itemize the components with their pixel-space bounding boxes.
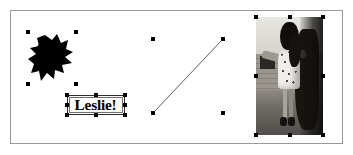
- text-box-content: Leslie!: [75, 98, 117, 113]
- figure-left-leg: [283, 85, 287, 122]
- photograph[interactable]: [256, 17, 323, 135]
- selection-handle-top-right[interactable]: [123, 93, 127, 97]
- selection-handle-bottom-right[interactable]: [321, 133, 325, 137]
- photo-child-figure: [276, 22, 303, 131]
- selection-handle-top-right[interactable]: [221, 37, 225, 41]
- blob-icon[interactable]: [28, 32, 76, 84]
- selection-handle-bottom-left[interactable]: [26, 82, 30, 86]
- selection-handle-middle-left[interactable]: [254, 74, 258, 78]
- selection-handle-top-left[interactable]: [26, 30, 30, 34]
- canvas-frame: Leslie!: [10, 10, 343, 144]
- line-object-diagonal[interactable]: [153, 39, 223, 113]
- drawing-canvas[interactable]: Leslie!: [11, 11, 342, 143]
- figure-left-shoe: [280, 117, 287, 126]
- selection-handle-bottom-right[interactable]: [123, 113, 127, 117]
- figure-right-leg: [289, 85, 293, 122]
- selection-handle-middle-right[interactable]: [321, 74, 325, 78]
- selection-handle-top-left[interactable]: [151, 37, 155, 41]
- selection-handle-bottom-right[interactable]: [221, 111, 225, 115]
- selection-handle-bottom-center[interactable]: [288, 133, 292, 137]
- selection-handle-bottom-right[interactable]: [74, 82, 78, 86]
- selection-handle-bottom-left[interactable]: [151, 111, 155, 115]
- selection-handle-top-right[interactable]: [321, 15, 325, 19]
- diagonal-line-icon[interactable]: [153, 39, 223, 113]
- application-window: Leslie!: [0, 0, 353, 155]
- text-box-frame[interactable]: Leslie!: [67, 95, 125, 115]
- photo-shadow-overlay: [300, 17, 323, 135]
- selection-handle-bottom-left[interactable]: [65, 113, 69, 117]
- selection-handle-middle-right[interactable]: [123, 103, 127, 107]
- selection-handle-middle-left[interactable]: [65, 103, 69, 107]
- selection-handle-top-left[interactable]: [65, 93, 69, 97]
- shape-freeform-blob[interactable]: [28, 32, 76, 84]
- selection-handle-bottom-center[interactable]: [94, 113, 98, 117]
- text-object-leslie[interactable]: Leslie!: [67, 95, 125, 115]
- image-object-photo[interactable]: [256, 17, 323, 135]
- selection-handle-top-right[interactable]: [74, 30, 78, 34]
- text-box-inner-frame: Leslie!: [69, 97, 123, 113]
- selection-handle-top-left[interactable]: [254, 15, 258, 19]
- selection-handle-top-center[interactable]: [288, 15, 292, 19]
- figure-right-shoe: [288, 117, 295, 126]
- selection-handle-top-center[interactable]: [94, 93, 98, 97]
- selection-handle-bottom-left[interactable]: [254, 133, 258, 137]
